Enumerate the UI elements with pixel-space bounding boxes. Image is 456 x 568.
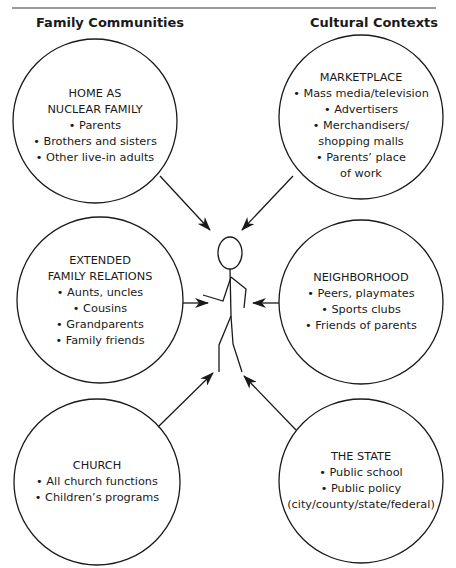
node-item: of work: [281, 166, 441, 182]
node-title: THE STATE: [281, 449, 441, 465]
node-neighborhood: NEIGHBORHOOD • Peers, playmates • Sports…: [281, 270, 441, 334]
node-marketplace: MARKETPLACE • Mass media/television • Ad…: [281, 70, 441, 182]
node-title: NUCLEAR FAMILY: [15, 102, 175, 118]
node-title: HOME AS: [15, 86, 175, 102]
stick-figure-icon: [203, 237, 246, 372]
node-item: • Mass media/television: [281, 86, 441, 102]
node-extended-family: EXTENDED FAMILY RELATIONS • Aunts, uncle…: [18, 253, 182, 349]
arrow-church-to-child: [158, 373, 213, 427]
node-title: EXTENDED: [18, 253, 182, 269]
node-item: • Children’s programs: [17, 490, 177, 506]
node-title: CHURCH: [17, 458, 177, 474]
node-item: • Advertisers: [281, 102, 441, 118]
arrow-home-to-child: [160, 176, 210, 230]
node-item: • Grandparents: [18, 317, 182, 333]
node-item: • All church functions: [17, 474, 177, 490]
node-item: • Public school: [281, 465, 441, 481]
node-title: MARKETPLACE: [281, 70, 441, 86]
node-item: • Merchandisers/: [281, 118, 441, 134]
node-item: • Peers, playmates: [281, 286, 441, 302]
node-item: • Parents’ place: [281, 150, 441, 166]
node-item: (city/county/state/federal): [281, 497, 441, 513]
node-item: • Cousins: [18, 301, 182, 317]
node-item: • Public policy: [281, 481, 441, 497]
arrow-marketplace-to-child: [242, 176, 293, 230]
node-state: THE STATE • Public school • Public polic…: [281, 449, 441, 513]
node-item: • Parents: [15, 118, 175, 134]
node-item: • Aunts, uncles: [18, 285, 182, 301]
node-home: HOME AS NUCLEAR FAMILY • Parents • Broth…: [15, 86, 175, 166]
node-item: shopping malls: [281, 134, 441, 150]
node-item: • Brothers and sisters: [15, 134, 175, 150]
node-title: NEIGHBORHOOD: [281, 270, 441, 286]
node-item: • Sports clubs: [281, 302, 441, 318]
node-title: FAMILY RELATIONS: [18, 269, 182, 285]
node-item: • Friends of parents: [281, 318, 441, 334]
node-church: CHURCH • All church functions • Children…: [17, 458, 177, 506]
node-item: • Family friends: [18, 333, 182, 349]
node-item: • Other live-in adults: [15, 150, 175, 166]
arrow-state-to-child: [244, 376, 296, 430]
